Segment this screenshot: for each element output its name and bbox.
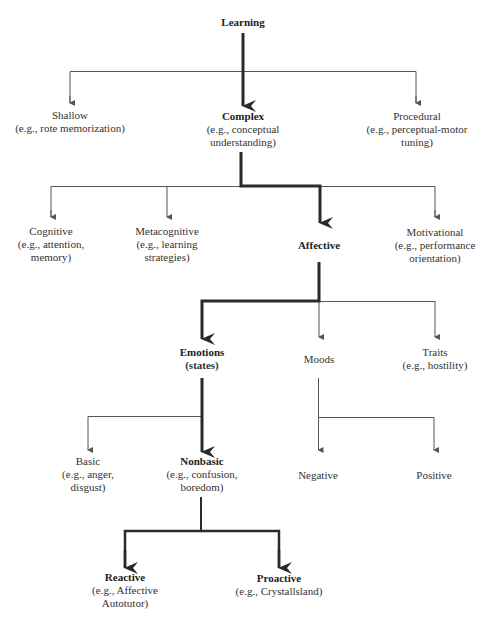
- node-proactive: Proactive (e.g., Crystallsland): [236, 572, 323, 598]
- node-title: Proactive: [236, 572, 323, 585]
- node-example: (e.g., perceptual-motor: [367, 123, 468, 136]
- node-example: (e.g., learning: [135, 238, 199, 251]
- node-title: Emotions: [180, 346, 225, 359]
- node-example: (e.g., Crystallsland): [236, 585, 323, 598]
- node-title: Metacognitive: [135, 225, 199, 238]
- node-traits: Traits (e.g., hostility): [403, 346, 468, 372]
- node-example: (states): [180, 359, 225, 372]
- node-title: Cognitive: [18, 225, 84, 238]
- node-example: understanding): [207, 136, 280, 149]
- thick-arrow-to-affective: [241, 152, 320, 223]
- node-example: (e.g., hostility): [403, 359, 468, 372]
- node-title: Reactive: [92, 571, 158, 584]
- level1-connectors: [70, 33, 416, 106]
- level3-connectors: [202, 262, 435, 339]
- node-shallow: Shallow (e.g., rote memorization): [15, 109, 125, 135]
- node-example: (e.g., attention,: [18, 238, 84, 251]
- connector-lines: [0, 0, 491, 624]
- level5-connectors: [125, 497, 279, 568]
- node-example: disgust): [62, 481, 114, 494]
- level2-connectors: [51, 152, 435, 223]
- node-example: boredom): [166, 481, 237, 494]
- node-title: Complex: [207, 110, 280, 123]
- node-complex: Complex (e.g., conceptual understanding): [207, 110, 280, 149]
- arrow-to-basic: [88, 417, 202, 451]
- node-example: (e.g., conceptual: [207, 123, 280, 136]
- node-title: Negative: [298, 469, 338, 482]
- node-affective: Affective: [298, 239, 340, 252]
- node-nonbasic: Nonbasic (e.g., confusion, boredom): [166, 455, 237, 494]
- node-emotions: Emotions (states): [180, 346, 225, 372]
- node-example: (e.g., performance: [395, 239, 476, 252]
- node-title: Procedural: [367, 110, 468, 123]
- node-title: Learning: [221, 16, 264, 29]
- node-example: (e.g., Affective: [92, 584, 158, 597]
- node-positive: Positive: [416, 469, 451, 482]
- node-moods: Moods: [304, 353, 335, 366]
- node-negative: Negative: [298, 469, 338, 482]
- node-procedural: Procedural (e.g., perceptual-motor tunin…: [367, 110, 468, 149]
- node-title: Moods: [304, 353, 335, 366]
- level2-branch-line: [51, 187, 435, 218]
- node-cognitive: Cognitive (e.g., attention, memory): [18, 225, 84, 264]
- node-title: Traits: [403, 346, 468, 359]
- learning-taxonomy-diagram: Learning Shallow (e.g., rote memorizatio…: [0, 0, 491, 624]
- node-example: (e.g., anger,: [62, 468, 114, 481]
- arrow-to-positive: [319, 418, 435, 451]
- node-title: Motivational: [395, 226, 476, 239]
- level5-branch-line: [125, 531, 279, 568]
- node-title: Affective: [298, 239, 340, 252]
- node-motivational: Motivational (e.g., performance orientat…: [395, 226, 476, 265]
- node-title: Nonbasic: [166, 455, 237, 468]
- node-example: memory): [18, 251, 84, 264]
- node-metacognitive: Metacognitive (e.g., learning strategies…: [135, 225, 199, 264]
- level4-connectors: [88, 378, 434, 452]
- node-example: (e.g., confusion,: [166, 468, 237, 481]
- node-example: tuning): [367, 136, 468, 149]
- node-title: Positive: [416, 469, 451, 482]
- node-basic: Basic (e.g., anger, disgust): [62, 455, 114, 494]
- node-reactive: Reactive (e.g., Affective Autotutor): [92, 571, 158, 610]
- node-example: Autotutor): [92, 597, 158, 610]
- node-example: strategies): [135, 251, 199, 264]
- node-title: Basic: [62, 455, 114, 468]
- node-learning: Learning: [221, 16, 264, 29]
- node-example: (e.g., rote memorization): [15, 122, 125, 135]
- node-title: Shallow: [15, 109, 125, 122]
- node-example: orientation): [395, 252, 476, 265]
- thick-arrow-to-emotions: [202, 262, 319, 339]
